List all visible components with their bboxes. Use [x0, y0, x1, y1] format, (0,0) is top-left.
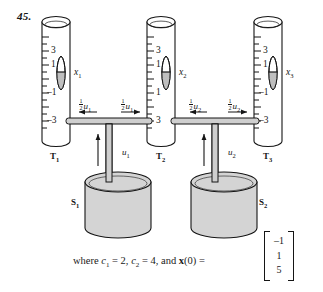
frac-den-c: 2 [189, 105, 193, 111]
tick-label-T2-1: 1 [156, 60, 161, 70]
tube-T3 [254, 17, 282, 147]
flow-label-u1-sub: 1 [127, 152, 130, 159]
sump-label-S2-sub: 2 [264, 202, 267, 209]
sump-S2 [191, 172, 257, 238]
frac-den-d: 2 [228, 105, 232, 111]
tank-label-T2: T2 [156, 152, 165, 163]
frac-den-b: 2 [121, 105, 125, 111]
tick-label-T1-1: 1 [51, 60, 56, 70]
tick-label-T3-neg3: –3 [259, 116, 269, 126]
sump-S1 [85, 172, 151, 238]
fraction-one-half-d: 12 [228, 98, 232, 111]
flow-label-half-u2-left-sub: 2 [198, 106, 201, 113]
tank-label-T1: T1 [50, 152, 59, 163]
flow-label-half-u1-left: 12u1 [79, 98, 91, 113]
tick-label-T2-3: 3 [156, 46, 161, 56]
tick-label-T1-3: 3 [51, 46, 56, 56]
flow-label-u1: u1 [122, 148, 130, 159]
flow-label-half-u1-right: 12u1 [121, 98, 133, 113]
tick-label-T1-neg3: –3 [47, 116, 57, 126]
flow-label-u2-sub: 2 [233, 152, 236, 159]
matrix-entry-2: 1 [274, 249, 284, 264]
vertical-riser-2-overlay [212, 124, 218, 182]
tick-label-T3-neg1: –1 [259, 88, 269, 98]
state-label-x3-sub: 3 [290, 72, 293, 79]
sump-rim-S2 [191, 172, 257, 192]
tick-label-T1-neg1: –1 [47, 88, 57, 98]
fraction-one-half-a: 12 [79, 98, 83, 111]
state-label-x1-sub: 1 [78, 72, 81, 79]
caption: where c1 = 2, c2 = 4, and x(0) = [73, 255, 205, 269]
tick-label-T3-3: 3 [263, 46, 268, 56]
tube-T1 [42, 17, 70, 147]
tube-T2 [147, 17, 175, 147]
tank-label-T3: T3 [263, 152, 272, 163]
matrix-entry-1: –1 [274, 234, 284, 249]
sump-rim-S1 [85, 172, 151, 192]
frac-den-a: 2 [79, 105, 83, 111]
fraction-one-half-c: 12 [189, 98, 193, 111]
vertical-riser-1-overlay [106, 124, 112, 182]
sump-label-S2: S2 [259, 198, 267, 209]
state-label-x1: x1 [74, 68, 81, 79]
frac-num-d: 1 [228, 98, 232, 105]
matrix-column: –1 1 5 [270, 231, 288, 281]
float-indicator-T3 [268, 56, 277, 90]
float-indicator-T2 [161, 56, 170, 90]
float-indicator-T1 [56, 56, 65, 90]
frac-num-a: 1 [79, 98, 83, 105]
caption-x0: (0) [184, 255, 196, 266]
caption-equals: = [196, 255, 205, 266]
frac-num-b: 1 [121, 98, 125, 105]
caption-eq2: = 4, and [139, 255, 178, 266]
state-label-x2: x2 [179, 68, 186, 79]
fraction-one-half-b: 12 [121, 98, 125, 111]
matrix-entry-3: 5 [274, 263, 284, 278]
caption-eq1: = 2, [109, 255, 131, 266]
matrix-bracket-right [288, 231, 294, 281]
tank-label-T3-sub: 3 [269, 156, 272, 163]
horizontal-pipe-2 [171, 118, 259, 124]
tick-label-T2-1b: 1 [156, 88, 161, 98]
flow-label-half-u2-right: 12u2 [228, 98, 240, 113]
flow-label-u2: u2 [228, 148, 236, 159]
state-label-x2-sub: 2 [183, 72, 186, 79]
tick-label-T2-3b: 3 [156, 116, 161, 126]
problem-number: 45. [17, 11, 32, 22]
state-label-x3: x3 [286, 68, 293, 79]
sump-label-S1-sub: 1 [76, 202, 79, 209]
flow-label-half-u2-left: 12u2 [189, 98, 201, 113]
sump-label-S1: S1 [71, 198, 79, 209]
tank-label-T1-sub: 1 [56, 156, 59, 163]
horizontal-pipe-1 [66, 118, 152, 124]
frac-num-c: 1 [189, 98, 193, 105]
flow-label-half-u1-right-sub: 1 [130, 106, 133, 113]
caption-where: where [73, 255, 101, 266]
flow-label-half-u2-right-sub: 2 [237, 106, 240, 113]
initial-condition-vector: –1 1 5 [264, 231, 294, 281]
tank-label-T2-sub: 2 [162, 156, 165, 163]
tick-label-T3-1: 1 [263, 60, 268, 70]
flow-label-half-u1-left-sub: 1 [88, 106, 91, 113]
